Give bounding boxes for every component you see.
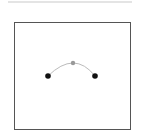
curve-diagram xyxy=(0,0,141,134)
end-anchor-point[interactable] xyxy=(92,73,98,79)
bezier-curve-path xyxy=(48,63,95,76)
start-anchor-point[interactable] xyxy=(45,73,51,79)
control-point[interactable] xyxy=(71,61,75,65)
